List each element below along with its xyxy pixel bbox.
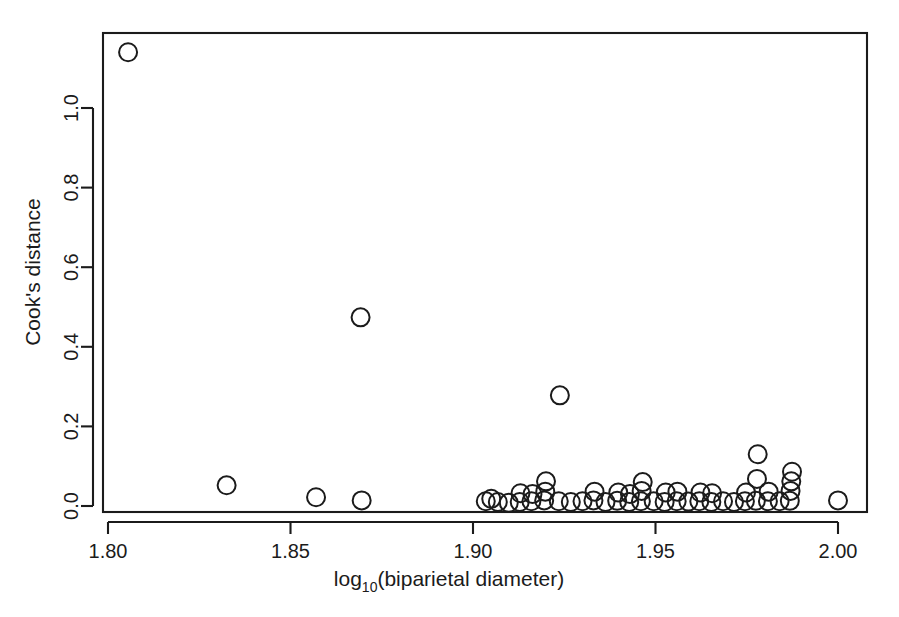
data-point	[829, 491, 847, 509]
data-point	[353, 491, 371, 509]
x-axis-title-rest: (biparietal diameter)	[377, 567, 564, 590]
plot-box-border	[103, 33, 867, 512]
y-tick-label-1: 0.2	[60, 412, 82, 440]
x-axis-tick-labels: 1.801.851.901.952.00	[89, 540, 858, 562]
cooks-distance-scatter-plot: 1.801.851.901.952.00 0.00.20.40.60.81.0 …	[0, 0, 899, 617]
x-axis-ticks	[108, 522, 838, 534]
y-tick-label-3: 0.6	[60, 253, 82, 281]
x-tick-label-1: 1.85	[271, 540, 310, 562]
x-axis-title-subscript: 10	[362, 579, 378, 595]
caption-fragment	[0, 603, 899, 617]
y-tick-label-2: 0.4	[60, 333, 82, 361]
x-tick-label-0: 1.80	[89, 540, 128, 562]
data-points-layer	[119, 43, 847, 512]
figure-canvas: 1.801.851.901.952.00 0.00.20.40.60.81.0 …	[0, 0, 899, 617]
x-axis-title: log10(biparietal diameter)	[334, 567, 564, 595]
y-tick-label-5: 1.0	[60, 94, 82, 122]
y-tick-label-4: 0.8	[60, 174, 82, 202]
y-axis-title: Cook's distance	[21, 198, 44, 346]
plot-frame	[103, 33, 867, 512]
data-point	[119, 43, 137, 61]
data-point	[537, 472, 555, 490]
x-tick-label-2: 1.90	[454, 540, 493, 562]
x-tick-label-3: 1.95	[636, 540, 675, 562]
x-axis-title-main: log	[334, 567, 362, 590]
y-tick-label-0: 0.0	[60, 492, 82, 520]
data-point	[352, 308, 370, 326]
data-point	[218, 476, 236, 494]
y-axis-ticks	[81, 108, 93, 506]
data-point	[307, 488, 325, 506]
data-point	[551, 386, 569, 404]
data-point	[749, 445, 767, 463]
y-axis-tick-labels: 0.00.20.40.60.81.0	[60, 94, 82, 520]
x-tick-label-4: 2.00	[819, 540, 858, 562]
data-point	[771, 492, 789, 510]
